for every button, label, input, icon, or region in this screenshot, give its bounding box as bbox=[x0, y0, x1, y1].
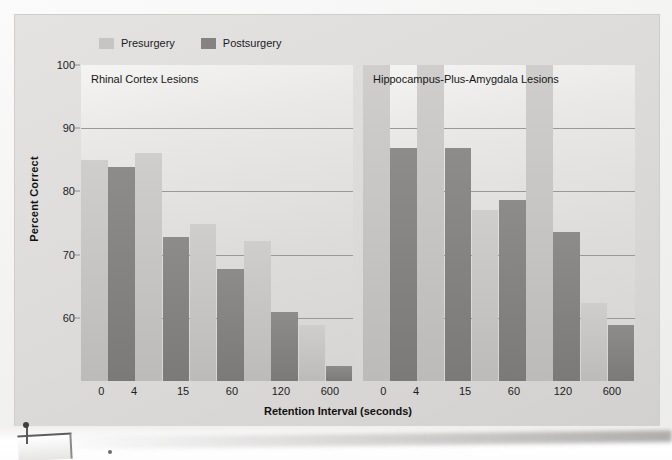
y-tick-mark-80 bbox=[75, 191, 80, 192]
x-tick-label-60: 60 bbox=[226, 385, 238, 397]
figure-plate: Presurgery Postsurgery Percent Correct 6… bbox=[14, 14, 660, 428]
bar-post-0 bbox=[108, 167, 135, 381]
x-tick-label-120: 120 bbox=[272, 385, 290, 397]
y-tick-mark-90 bbox=[75, 128, 80, 129]
bar-group-left bbox=[81, 65, 353, 381]
speck-mark-icon bbox=[108, 450, 112, 454]
bar-pre-120 bbox=[581, 303, 608, 381]
y-tick-label-100: 100 bbox=[49, 59, 75, 71]
bar-post-60 bbox=[553, 232, 580, 381]
bar-group-right bbox=[363, 65, 635, 381]
bar-pre-60 bbox=[526, 65, 553, 381]
y-tick-mark-70 bbox=[75, 254, 80, 255]
x-tick-label-60: 60 bbox=[508, 385, 520, 397]
bar-pre-15 bbox=[472, 210, 499, 381]
y-tick-label-80: 80 bbox=[49, 185, 75, 197]
page-edge bbox=[0, 426, 672, 460]
pin-shaft-icon bbox=[26, 426, 28, 444]
y-axis-ticks: 60708090100 bbox=[49, 15, 75, 429]
y-axis-label: Percent Correct bbox=[28, 144, 40, 254]
y-tick-mark-60 bbox=[75, 317, 80, 318]
x-tick-label-0: 0 bbox=[98, 385, 104, 397]
bar-post-4 bbox=[163, 237, 190, 381]
panel-title-left: Rhinal Cortex Lesions bbox=[91, 73, 199, 85]
x-tick-label-4: 4 bbox=[131, 385, 137, 397]
y-tick-label-60: 60 bbox=[49, 312, 75, 324]
bar-pre-4 bbox=[135, 153, 162, 381]
x-tick-label-600: 600 bbox=[603, 385, 621, 397]
panel-title-right: Hippocampus-Plus-Amygdala Lesions bbox=[373, 73, 559, 85]
bar-pre-15 bbox=[190, 224, 217, 381]
bar-post-15 bbox=[217, 269, 244, 381]
bar-post-4 bbox=[445, 148, 472, 381]
x-axis-ticks-right: 041560120600 bbox=[363, 385, 635, 401]
bar-pre-0 bbox=[363, 65, 390, 381]
bar-post-15 bbox=[499, 200, 526, 381]
x-tick-label-15: 15 bbox=[177, 385, 189, 397]
x-tick-label-120: 120 bbox=[554, 385, 572, 397]
bar-pre-4 bbox=[417, 65, 444, 381]
bar-pre-0 bbox=[81, 160, 108, 381]
y-tick-label-70: 70 bbox=[49, 249, 75, 261]
plot-area: Percent Correct 60708090100 Rhinal Corte… bbox=[15, 15, 661, 429]
x-tick-label-15: 15 bbox=[459, 385, 471, 397]
bar-post-120 bbox=[608, 325, 635, 381]
x-axis-ticks-left: 041560120600 bbox=[81, 385, 353, 401]
bar-post-120 bbox=[326, 366, 353, 381]
bar-post-0 bbox=[390, 148, 417, 381]
x-tick-label-600: 600 bbox=[321, 385, 339, 397]
y-tick-mark-100 bbox=[75, 65, 80, 66]
y-tick-label-90: 90 bbox=[49, 122, 75, 134]
x-tick-label-0: 0 bbox=[380, 385, 386, 397]
page-shadow bbox=[40, 430, 672, 450]
bar-pre-120 bbox=[299, 325, 326, 381]
bar-pre-60 bbox=[244, 241, 271, 381]
bar-post-60 bbox=[271, 312, 298, 381]
panel-rhinal-cortex-lesions: Rhinal Cortex Lesions 041560120600 bbox=[81, 65, 353, 381]
panel-hippocampus-plus-amygdala-lesions: Hippocampus-Plus-Amygdala Lesions 041560… bbox=[363, 65, 635, 381]
pin-head-icon bbox=[23, 422, 29, 428]
x-axis-label: Retention Interval (seconds) bbox=[15, 405, 661, 417]
x-tick-label-4: 4 bbox=[413, 385, 419, 397]
scanned-page: Presurgery Postsurgery Percent Correct 6… bbox=[0, 0, 672, 460]
